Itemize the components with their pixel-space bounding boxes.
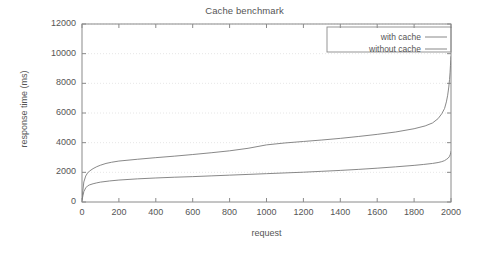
x-tick-label: 1400 <box>320 207 360 217</box>
x-tick-label: 200 <box>99 207 139 217</box>
x-tick-label: 800 <box>210 207 250 217</box>
x-tick-label: 1000 <box>247 207 287 217</box>
x-tick-label: 2000 <box>431 207 471 217</box>
x-tick-label: 0 <box>62 207 102 217</box>
y-tick-label: 6000 <box>30 107 76 117</box>
x-tick-label: 600 <box>173 207 213 217</box>
y-tick-label: 12000 <box>30 18 76 28</box>
y-tick-label: 8000 <box>30 77 76 87</box>
y-tick-label: 4000 <box>30 137 76 147</box>
x-tick-label: 1200 <box>283 207 323 217</box>
series-line-without-cache <box>82 57 451 199</box>
x-tick-label: 400 <box>136 207 176 217</box>
cache-benchmark-chart: Cache benchmark response time (ms) reque… <box>0 0 489 254</box>
legend-label-without-cache: without cache <box>329 44 421 54</box>
y-tick-label: 2000 <box>30 166 76 176</box>
x-tick-label: 1600 <box>357 207 397 217</box>
legend-label-with-cache: with cache <box>329 32 421 42</box>
x-tick-label: 1800 <box>394 207 434 217</box>
y-tick-label: 10000 <box>30 48 76 58</box>
y-tick-label: 0 <box>30 196 76 206</box>
